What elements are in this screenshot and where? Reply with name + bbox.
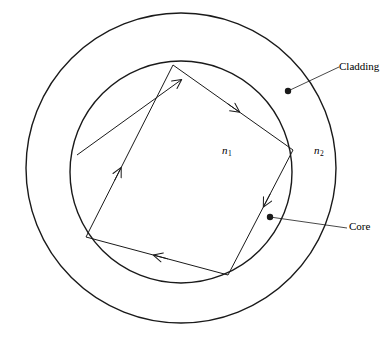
cladding-label: Cladding — [339, 61, 379, 72]
n1-symbol: n — [222, 144, 228, 156]
ray-arrowhead-right-to-bottomright — [264, 194, 270, 206]
incoming-ray — [77, 80, 181, 155]
fiber-diagram-canvas — [0, 0, 392, 346]
ray-arrowhead-bottomleft-to-top — [114, 168, 120, 180]
core-leader-line — [270, 217, 347, 228]
core-leader-dot — [267, 214, 273, 220]
cladding-refractive-index-label: n2 — [314, 145, 323, 156]
ray-arrowhead-top-to-right — [228, 104, 239, 112]
cladding-leader-dot — [285, 88, 291, 94]
core-boundary-circle — [70, 61, 292, 283]
n1-subscript: 1 — [228, 149, 232, 158]
ray-arrowhead-bottomright-to-bottomleft — [154, 255, 168, 259]
n2-symbol: n — [314, 144, 320, 156]
ray-segment-bottomleft-to-top — [86, 65, 173, 237]
ray-segment-right-to-bottomright — [228, 150, 293, 275]
core-label: Core — [349, 221, 370, 232]
n2-subscript: 2 — [320, 149, 324, 158]
cladding-outer-circle — [26, 13, 336, 323]
core-refractive-index-label: n1 — [222, 145, 231, 156]
fiber-cross-section-figure: Cladding Core n1 n2 — [0, 0, 392, 346]
